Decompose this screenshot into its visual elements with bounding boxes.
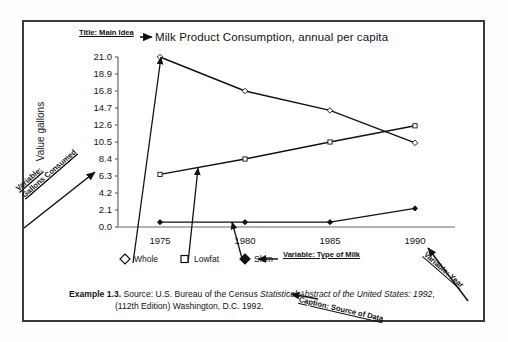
- data-point-whole: [412, 140, 418, 146]
- series-line-lowfat: [160, 126, 415, 175]
- data-point-skim: [242, 220, 247, 225]
- chart-series-lines: [157, 54, 418, 225]
- data-point-whole: [327, 108, 333, 114]
- figure-caption: Example 1.3. Source: U.S. Bureau of the …: [55, 288, 455, 312]
- data-point-whole: [242, 88, 248, 94]
- data-point-skim: [157, 220, 162, 225]
- caption-example-number: Example 1.3.: [69, 289, 121, 299]
- legend-label: Lowfat: [194, 254, 219, 264]
- legend-label: Skim: [254, 254, 273, 264]
- annotation-type-of-milk: Variable: Type of Milk: [283, 250, 360, 259]
- data-point-skim: [327, 220, 332, 225]
- legend-marker-filled-diamond-icon: [238, 252, 252, 266]
- legend-item-whole[interactable]: Whole: [118, 252, 158, 266]
- arrow-whole-legend: [133, 57, 161, 263]
- series-line-whole: [160, 57, 415, 143]
- legend-marker-open-square-icon: [178, 252, 192, 266]
- screenshot-page: Milk Product Consumption, annual per cap…: [0, 0, 508, 342]
- caption-line-1: Example 1.3. Source: U.S. Bureau of the …: [55, 288, 455, 300]
- annotation-title-main-idea: Title: Main Idea: [79, 28, 134, 37]
- data-point-lowfat: [158, 172, 162, 176]
- data-point-lowfat: [328, 140, 332, 144]
- arrow-lowfat-legend: [188, 168, 198, 263]
- data-point-skim: [412, 206, 417, 211]
- series-line-skim: [160, 208, 415, 222]
- chart-axes: [115, 57, 455, 227]
- caption-source-italic: Statistical Abstract of the United State…: [260, 289, 432, 299]
- legend-item-lowfat[interactable]: Lowfat: [178, 252, 219, 266]
- caption-source-prefix: Source: U.S. Bureau of the Census: [121, 289, 260, 299]
- legend-item-skim[interactable]: Skim: [238, 252, 273, 266]
- legend-label: Whole: [134, 254, 158, 264]
- data-point-lowfat: [413, 124, 417, 128]
- legend-marker-open-diamond-icon: [118, 252, 132, 266]
- caption-line-2: (112th Edition) Washington, D.C. 1992.: [55, 300, 455, 312]
- caption-source-suffix: ,: [432, 289, 434, 299]
- data-point-lowfat: [243, 157, 247, 161]
- data-point-whole: [157, 54, 163, 60]
